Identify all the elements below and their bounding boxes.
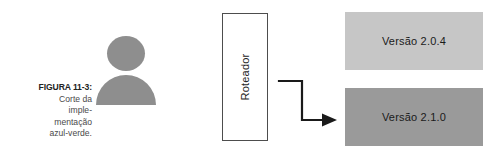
version-box-target: Versão 2.1.0 xyxy=(345,88,483,146)
version-label-target: Versão 2.1.0 xyxy=(382,111,446,123)
user-icon-head xyxy=(107,36,145,71)
router-node: Roteador xyxy=(222,13,268,141)
user-icon-body xyxy=(96,75,156,105)
version-box-stable: Versão 2.0.4 xyxy=(345,12,483,70)
figure-blue-green-cutover: FIGURA 11-3: Corte da imple- mentação az… xyxy=(0,0,494,159)
figure-caption-line-3: mentação xyxy=(8,117,92,129)
version-label-stable: Versão 2.0.4 xyxy=(382,35,446,47)
figure-caption-label: FIGURA 11-3: xyxy=(8,82,92,94)
figure-caption-line-2: imple- xyxy=(8,105,92,117)
user-icon xyxy=(104,36,164,108)
figure-caption: FIGURA 11-3: Corte da imple- mentação az… xyxy=(8,82,92,140)
elbow-arrow-icon xyxy=(268,66,348,132)
figure-caption-line-4: azul-verde. xyxy=(8,128,92,140)
router-label: Roteador xyxy=(239,54,251,101)
figure-caption-line-1: Corte da xyxy=(8,94,92,106)
